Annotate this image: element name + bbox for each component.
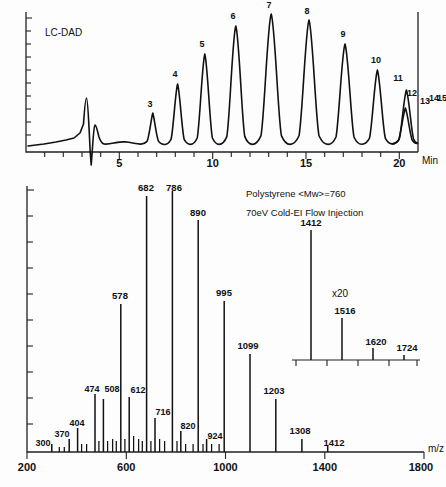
chromatogram-peak-label-5: 5 [199,39,204,49]
massspec-label-474: 474 [84,384,99,394]
massspec-inset: 1412 1516 1620 1724 x20 [292,217,420,366]
massspec-label-995: 995 [216,287,233,298]
inset-magnification-label: x20 [332,288,349,299]
chromatogram-label: LC-DAD [45,27,82,38]
mass-spectrum-plot: 300 370 404 474 508 578 612 682 716 786 … [0,175,446,487]
chromatogram-peak-label-6: 6 [230,11,235,21]
massspec-xtick-1400: 1400 [313,461,337,473]
massspec-xaxis-title: m/z [428,443,444,454]
chromatogram-xtick-10: 10 [207,157,219,169]
massspec-x-ticks [27,452,424,459]
massspec-xtick-1800: 1800 [409,461,433,473]
chromatogram-peak-label-10: 10 [371,55,381,65]
chromatogram-xaxis-title: Min [422,155,438,166]
massspec-label-890: 890 [190,207,206,218]
inset-peaks [311,230,404,360]
chromatogram-xtick-5: 5 [116,157,122,169]
chromatogram-peak-label-15: 15 [437,93,446,103]
chromatogram-axes [26,12,418,159]
chromatogram-plot: LC-DAD 5 10 15 20 Min 3 4 5 6 7 8 9 10 1… [0,0,446,175]
massspec-xtick-200: 200 [18,461,36,473]
figure-container: LC-DAD 5 10 15 20 Min 3 4 5 6 7 8 9 10 1… [0,0,446,487]
inset-x-ticks [296,360,417,366]
massspec-y-ticks [27,190,34,424]
massspec-label-820: 820 [180,421,195,431]
massspec-xtick-1000: 1000 [213,461,237,473]
massspec-label-716: 716 [155,407,170,417]
massspec-label-682: 682 [138,182,154,193]
massspec-label-1099: 1099 [237,340,258,351]
chromatogram-panel: LC-DAD 5 10 15 20 Min 3 4 5 6 7 8 9 10 1… [0,0,446,175]
inset-label-1412: 1412 [300,217,321,228]
massspec-minor-peaks [59,436,219,452]
chromatogram-peak-label-7: 7 [266,0,271,10]
massspec-label-578: 578 [112,290,128,301]
massspec-title-line1: Polystyrene <Mw>=760 [246,188,346,199]
massspec-label-370: 370 [54,429,69,439]
chromatogram-y-ticks [26,18,32,135]
massspec-label-508: 508 [104,384,119,394]
massspec-peaks [52,191,328,452]
chromatogram-peak-label-12: 12 [407,88,417,98]
massspec-label-786: 786 [166,182,182,193]
massspec-label-300: 300 [35,438,50,448]
chromatogram-x-ticks [45,152,400,159]
mass-spectrum-panel: 300 370 404 474 508 578 612 682 716 786 … [0,175,446,487]
massspec-label-612: 612 [130,385,145,395]
chromatogram-peak-label-8: 8 [304,6,309,16]
massspec-xtick-600: 600 [117,461,135,473]
inset-label-1724: 1724 [396,342,418,353]
chromatogram-peak-label-9: 9 [340,29,345,39]
chromatogram-peak-label-4: 4 [172,69,177,79]
inset-label-1516: 1516 [334,305,355,316]
massspec-label-924: 924 [207,431,222,441]
chromatogram-trace [28,14,417,165]
inset-label-1620: 1620 [365,336,386,347]
massspec-label-1203: 1203 [263,385,284,396]
chromatogram-xtick-20: 20 [393,157,405,169]
massspec-label-404: 404 [69,418,84,428]
chromatogram-xtick-15: 15 [300,157,312,169]
massspec-axes [27,186,424,459]
chromatogram-peak-label-3: 3 [147,99,152,109]
chromatogram-peak-label-11: 11 [393,73,403,83]
massspec-label-1308: 1308 [289,425,310,436]
massspec-label-1412: 1412 [323,437,344,448]
